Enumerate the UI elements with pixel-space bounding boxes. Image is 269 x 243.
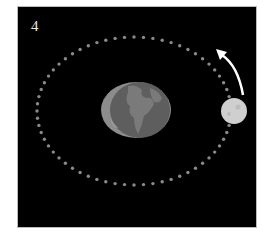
earth-icon: [101, 82, 171, 138]
moon-icon: [221, 98, 247, 124]
orbit-diagram: [0, 0, 269, 243]
direction-arrow-icon: [216, 49, 243, 95]
